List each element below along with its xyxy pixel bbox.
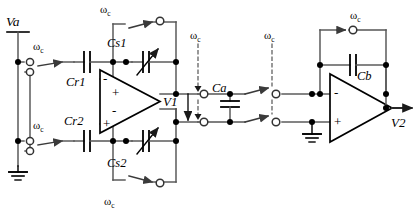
label-Cb: Cb: [357, 70, 372, 83]
opamp-differential: [100, 62, 198, 141]
opamp-out-term-plus: +: [334, 115, 341, 128]
opamp-diff-term-plus-inner-top: +: [112, 86, 119, 99]
opamp-diff-term-minus-inner-bottom: -: [112, 104, 116, 117]
label-Cs2: Cs2: [107, 157, 126, 170]
label-Ca: Ca: [212, 82, 227, 95]
capacitor-Cs2-branch: [113, 128, 176, 182]
label-Cr2: Cr2: [64, 115, 83, 128]
label-Cs1: Cs1: [107, 37, 126, 50]
label-Va: Va: [6, 15, 20, 29]
opamp-out-term-minus: -: [334, 86, 338, 99]
circuit-diagram-figure: Va ωc ωc ωc ωc ωc ωc ωc Cr1 Cr2 Cs1 Cs2 …: [0, 0, 419, 220]
clock-label-cs1: ωc: [100, 4, 111, 18]
label-V1: V1: [163, 95, 177, 108]
clock-label-cs2: ωc: [104, 196, 115, 210]
clock-label-ca-right: ωc: [264, 30, 275, 44]
clock-label-input-bottom: ωc: [33, 120, 44, 134]
schematic-canvas: [0, 0, 419, 220]
opamp-diff-term-plus-bottom: +: [103, 117, 110, 130]
clock-label-ca-left: ωc: [190, 30, 201, 44]
label-Cr1: Cr1: [66, 76, 85, 89]
clock-label-cb: ωc: [350, 10, 361, 24]
opamp-diff-term-minus-top: -: [103, 72, 107, 85]
clock-control-lines: [198, 44, 272, 114]
input-source-rail: [7, 32, 29, 166]
ground-input: [9, 166, 27, 180]
label-V2: V2: [391, 116, 405, 129]
clock-label-input-top: ωc: [33, 41, 44, 55]
